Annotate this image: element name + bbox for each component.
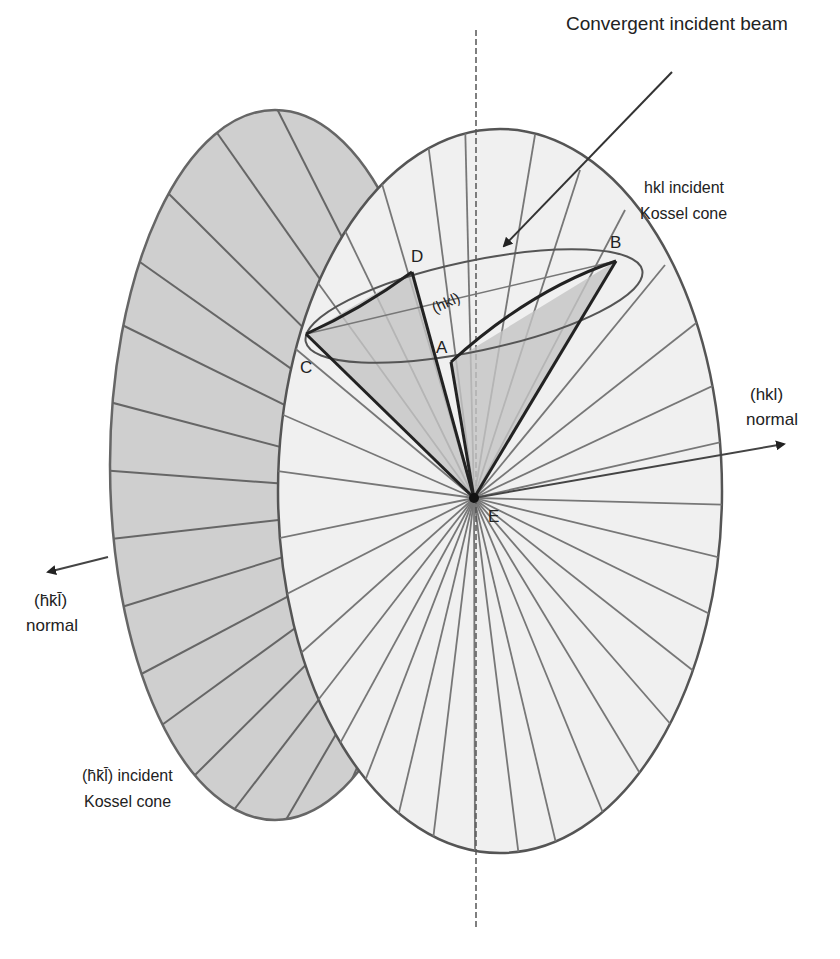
point-e-marker xyxy=(469,493,479,503)
point-label-d: D xyxy=(411,247,423,266)
point-label-e: E xyxy=(488,507,499,526)
kossel-cone-diagram: Convergent incident beam hkl incident Ko… xyxy=(0,0,840,959)
hkl-cone-label-line1: hkl incident xyxy=(644,179,725,196)
hkl-bar-cone-label-line1: (h̄k̄l̄) incident xyxy=(82,767,173,784)
hkl-normal-label-line1: (hkl) xyxy=(750,385,783,404)
point-label-a: A xyxy=(436,338,448,357)
hkl-cone-label-line2: Kossel cone xyxy=(640,205,727,222)
point-label-b: B xyxy=(610,233,621,252)
hkl-bar-cone-label-line2: Kossel cone xyxy=(84,793,171,810)
incident-beam-label: Convergent incident beam xyxy=(566,13,788,34)
hkl-normal-label-line2: normal xyxy=(746,410,798,429)
hkl-bar-normal-label-line2: normal xyxy=(26,616,78,635)
point-label-c: C xyxy=(300,358,312,377)
hkl-bar-normal-label-line1: (h̄k̄l̄) xyxy=(34,591,67,610)
hkl-bar-normal-arrow xyxy=(48,557,108,572)
